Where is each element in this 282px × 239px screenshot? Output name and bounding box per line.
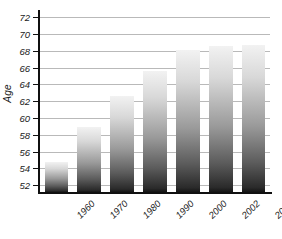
x-tick-label: 2003 <box>272 198 282 221</box>
y-tick-mark <box>33 68 39 69</box>
y-tick-mark <box>33 185 39 186</box>
y-tick-mark <box>33 84 39 85</box>
gridline <box>40 51 270 52</box>
y-tick-mark <box>33 118 39 119</box>
y-tick-label: 58 <box>4 129 30 140</box>
plot-area <box>40 12 270 192</box>
y-tick-mark <box>33 34 39 35</box>
bar <box>242 45 266 192</box>
x-tick-label: 1960 <box>75 198 98 221</box>
y-tick-label: 72 <box>4 12 30 23</box>
y-tick-label: 60 <box>4 112 30 123</box>
x-axis-line <box>38 192 272 194</box>
y-tick-label: 68 <box>4 45 30 56</box>
bar <box>45 162 69 192</box>
y-tick-label: 56 <box>4 146 30 157</box>
gridline <box>40 34 270 35</box>
x-tick-label: 2002 <box>239 198 262 221</box>
gridline <box>40 68 270 69</box>
bar <box>110 96 134 192</box>
y-tick-label: 70 <box>4 28 30 39</box>
bar-chart-figure: Age 5254565860626466687072 1960197019801… <box>0 0 282 239</box>
x-tick-label: 1970 <box>107 198 130 221</box>
bar <box>176 50 200 192</box>
bar <box>77 127 101 192</box>
x-tick-label: 1980 <box>140 198 163 221</box>
gridline <box>40 17 270 18</box>
x-tick-label: 2000 <box>206 198 229 221</box>
bar <box>209 46 233 192</box>
y-tick-mark <box>33 152 39 153</box>
y-tick-label: 66 <box>4 62 30 73</box>
y-tick-label: 62 <box>4 96 30 107</box>
y-tick-mark <box>33 17 39 18</box>
y-tick-mark <box>33 135 39 136</box>
x-tick-label: 1990 <box>173 198 196 221</box>
y-tick-mark <box>33 101 39 102</box>
y-tick-label: 52 <box>4 180 30 191</box>
y-tick-label: 64 <box>4 79 30 90</box>
y-tick-label: 54 <box>4 163 30 174</box>
y-tick-mark <box>33 51 39 52</box>
bar <box>143 71 167 192</box>
y-tick-mark <box>33 168 39 169</box>
